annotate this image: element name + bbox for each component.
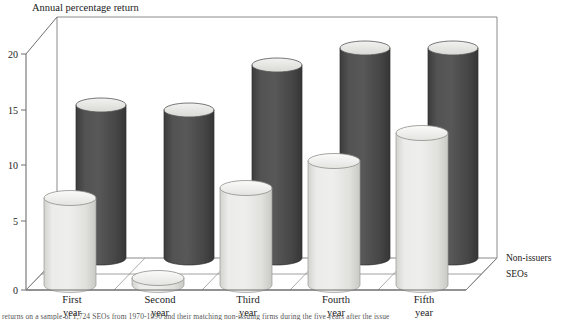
cat-label-first-line1: First xyxy=(62,294,81,305)
cat-label-fifth-line1: Fifth xyxy=(414,294,435,305)
cat-label-second-line1: Second xyxy=(145,294,177,305)
bar-seos-fourth-year xyxy=(308,154,360,293)
bar-non-issuers-second-year xyxy=(164,103,214,265)
bar-seos-fifth-year xyxy=(396,126,448,293)
caption-strip: returns on a sample of 1,724 SEOs from 1… xyxy=(0,313,568,320)
chart-3d-cylinder-bar: 20 15 10 5 0 Annual percentage return xyxy=(0,0,568,320)
axis-title: Annual percentage return xyxy=(32,2,139,13)
y-tick-label-5: 5 xyxy=(13,216,18,227)
cat-label-fourth-line1: Fourth xyxy=(322,294,351,305)
y-tick-label-10: 10 xyxy=(8,160,18,171)
legend: Non-issuers SEOs xyxy=(506,253,552,279)
bar-seos-third-year xyxy=(220,181,272,293)
bar-seos-first-year xyxy=(44,191,96,293)
cat-label-third-line1: Third xyxy=(236,294,260,305)
legend-label-seos: SEOs xyxy=(506,269,528,279)
y-axis-ticks: 20 15 10 5 0 xyxy=(8,49,26,296)
bar-seos-second-year xyxy=(132,271,184,293)
y-tick-label-15: 15 xyxy=(8,105,18,116)
caption-text: returns on a sample of 1,724 SEOs from 1… xyxy=(2,313,389,320)
y-tick-label-0: 0 xyxy=(13,285,18,296)
legend-label-non-issuers: Non-issuers xyxy=(506,253,552,263)
y-tick-label-20: 20 xyxy=(8,49,18,60)
